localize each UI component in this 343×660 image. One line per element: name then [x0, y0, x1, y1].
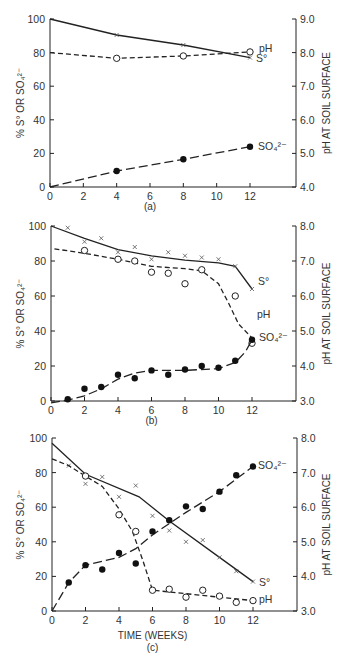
y2-tick-label: 6.0 [301, 501, 316, 513]
data-point-x [150, 257, 154, 261]
y-tick-label: 80 [35, 467, 47, 479]
x-tick-label: 8 [182, 404, 188, 416]
x-tick-label: 10 [213, 404, 225, 416]
data-point-open [250, 597, 256, 603]
data-point-filled [82, 562, 88, 568]
y2-axis-label: pH AT SOIL SURFACE [321, 262, 332, 364]
data-point-open [133, 528, 139, 534]
series-line [54, 249, 252, 338]
data-point-open [113, 55, 119, 61]
y2-tick-label: 8.0 [300, 47, 315, 59]
data-point-x [250, 287, 254, 291]
data-point-open [182, 281, 188, 287]
data-point-filled [99, 566, 105, 572]
data-point-filled [250, 463, 256, 469]
y-tick-label: 60 [34, 290, 46, 302]
x-tick-label: 12 [246, 404, 258, 416]
data-point-filled [200, 506, 206, 512]
y-tick-label: 40 [35, 536, 47, 548]
y-axis-label: % S° OR SO₄²⁻ [15, 279, 26, 349]
y-axis-label: % S° OR SO₄²⁻ [15, 490, 26, 560]
data-point-x [218, 555, 222, 559]
data-point-filled [133, 560, 139, 566]
series-line [50, 147, 250, 187]
series-label: SO₄²⁻ [258, 140, 287, 152]
data-point-open [180, 53, 186, 59]
y-tick-label: 100 [28, 220, 46, 232]
x-tick-label: 6 [150, 614, 156, 626]
panel-c: 0204060801003.04.05.06.07.08.0024681012%… [15, 432, 332, 653]
series-label: pH [257, 308, 270, 320]
data-point-x [251, 580, 255, 584]
x-tick-label: 2 [80, 190, 86, 202]
data-point-open [200, 587, 206, 593]
data-point-x [117, 495, 121, 499]
x-tick-label: 12 [244, 190, 256, 202]
x-tick-label: 12 [247, 614, 259, 626]
data-point-open [115, 256, 121, 262]
data-point-open [82, 473, 88, 479]
y-tick-label: 0 [40, 395, 46, 407]
data-point-open [232, 293, 238, 299]
y2-tick-label: 9.0 [300, 13, 315, 25]
data-point-open [216, 593, 222, 599]
data-point-filled [182, 366, 188, 372]
data-point-x [151, 514, 155, 518]
data-point-x [134, 484, 138, 488]
figure: 0204060801004.05.06.07.08.09.0024681012%… [0, 0, 343, 660]
y-axis-label: % S° OR SO₄²⁻ [15, 68, 26, 138]
series-s0 [51, 226, 254, 291]
y2-tick-label: 7.0 [301, 467, 316, 479]
panel-b: 0204060801003.04.05.06.07.08.0024681012%… [15, 220, 332, 426]
series-label: pH [259, 593, 272, 605]
data-point-filled [66, 579, 72, 585]
data-point-open [165, 270, 171, 276]
data-point-filled [98, 384, 104, 390]
y2-tick-label: 6.0 [300, 114, 315, 126]
data-point-open [199, 267, 205, 273]
y-tick-label: 20 [33, 147, 45, 159]
y2-tick-label: 5.0 [300, 147, 315, 159]
x-tick-label: 4 [114, 190, 120, 202]
data-point-filled [113, 168, 119, 174]
y2-tick-label: 5.0 [301, 536, 316, 548]
data-point-open [183, 594, 189, 600]
data-point-x [66, 226, 70, 230]
panel-label: (c) [147, 642, 159, 653]
data-point-x [116, 250, 120, 254]
y2-tick-label: 7.0 [300, 255, 315, 267]
data-point-x [100, 475, 104, 479]
data-point-x [184, 540, 188, 544]
data-point-filled [233, 472, 239, 478]
data-point-filled [149, 528, 155, 534]
x-tick-label: 0 [49, 614, 55, 626]
x-tick-label: 4 [116, 614, 122, 626]
data-point-open [116, 512, 122, 518]
data-point-x [99, 236, 103, 240]
series-so4 [51, 337, 255, 403]
y-tick-label: 60 [33, 80, 45, 92]
data-point-filled [216, 488, 222, 494]
y2-tick-label: 4.0 [300, 360, 315, 372]
y2-tick-label: 3.0 [301, 605, 316, 617]
data-point-open [81, 247, 87, 253]
series-line [52, 443, 253, 581]
y2-tick-label: 8.0 [300, 220, 315, 232]
data-point-filled [180, 156, 186, 162]
data-point-filled [183, 503, 189, 509]
y-tick-label: 20 [34, 360, 46, 372]
data-point-filled [249, 337, 255, 343]
data-point-filled [148, 367, 154, 373]
y2-tick-label: 6.0 [300, 290, 315, 302]
series-ph [50, 49, 253, 62]
data-point-x [84, 482, 88, 486]
x-tick-label: 8 [183, 614, 189, 626]
data-point-open [166, 586, 172, 592]
y2-axis-label: pH AT SOIL SURFACE [321, 52, 332, 154]
y2-tick-label: 3.0 [300, 395, 315, 407]
y-tick-label: 20 [35, 570, 47, 582]
x-axis-label: TIME (WEEKS) [118, 630, 187, 641]
x-tick-label: 10 [211, 190, 223, 202]
panel-label: (b) [145, 415, 157, 426]
x-tick-label: 0 [48, 404, 54, 416]
